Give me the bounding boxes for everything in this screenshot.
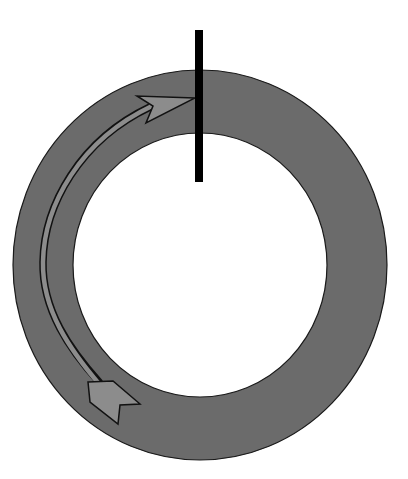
diagram-svg bbox=[0, 0, 408, 479]
marker-bar bbox=[195, 30, 203, 182]
ring-diagram bbox=[0, 0, 408, 479]
